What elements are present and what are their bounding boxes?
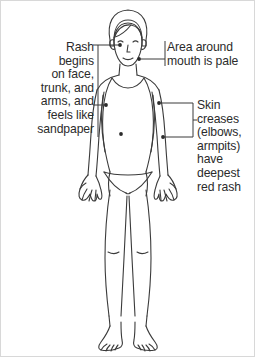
finger-left-1 xyxy=(82,189,87,200)
knee-right xyxy=(137,252,148,254)
marker-left-arm-dot xyxy=(104,103,108,107)
neck-right xyxy=(136,64,137,75)
ankle-left xyxy=(109,316,110,326)
torso-right xyxy=(146,95,154,172)
nose xyxy=(127,45,130,52)
callout-skin-creases: Skin creases (elbows, armpits) have deep… xyxy=(197,99,253,194)
ankle-right xyxy=(146,316,147,326)
eye-right xyxy=(133,41,138,42)
marker-face-cheek-dot xyxy=(118,43,122,47)
eye-left xyxy=(118,41,123,42)
marker-trunk-left-dot xyxy=(119,132,123,136)
marker-perioral-dot xyxy=(137,57,141,61)
top-neckline xyxy=(112,78,144,88)
marker-elbow-dot xyxy=(161,135,165,139)
neck-left xyxy=(119,64,120,75)
finger-right-1 xyxy=(169,189,174,200)
foot-right xyxy=(134,322,158,350)
mouth xyxy=(123,58,133,60)
foot-left xyxy=(99,322,123,350)
brief-crotch xyxy=(126,193,130,194)
diagram-page: Rash begins on face, trunk, and arms, an… xyxy=(0,0,256,358)
marker-armpit-dot xyxy=(157,101,161,105)
leg-left-inner xyxy=(121,196,127,316)
top-strap-right xyxy=(144,78,153,152)
knee-left xyxy=(108,252,119,254)
callout-pale-mouth-area: Area around mouth is pale xyxy=(167,41,253,68)
brief-waistline xyxy=(104,172,152,175)
leg-right-inner xyxy=(129,196,135,316)
top-strap-left xyxy=(103,78,112,152)
callout-rash-distribution: Rash begins on face, trunk, and arms, an… xyxy=(12,41,94,136)
